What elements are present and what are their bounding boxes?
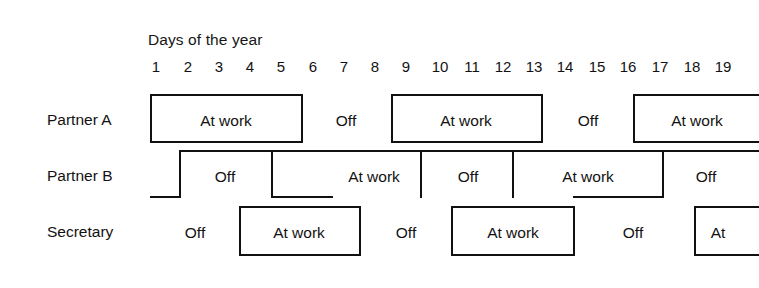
day-tick-16: 16 — [620, 58, 637, 75]
schedule-line-secretary-10 — [694, 254, 759, 256]
day-tick-17: 17 — [652, 58, 669, 75]
day-tick-9: 9 — [402, 58, 410, 75]
schedule-cell-label: At work — [440, 112, 492, 130]
schedule-line-partner-b-12 — [662, 150, 759, 152]
schedule-line-partner-b-11 — [573, 196, 663, 198]
schedule-cell-label: Off — [185, 224, 205, 242]
schedule-line-partner-b-3 — [271, 150, 273, 198]
schedule-line-secretary-8 — [694, 206, 759, 208]
day-tick-3: 3 — [215, 58, 223, 75]
day-tick-18: 18 — [684, 58, 701, 75]
schedule-cell-label: Off — [623, 224, 643, 242]
schedule-line-partner-b-0 — [179, 150, 181, 198]
schedule-line-secretary-9 — [694, 206, 696, 256]
schedule-line-secretary-3 — [239, 254, 361, 256]
schedule-line-partner-b-5 — [271, 196, 333, 198]
schedule-cell-label: At work — [562, 168, 614, 186]
schedule-cell-label: Off — [336, 112, 356, 130]
day-tick-7: 7 — [340, 58, 348, 75]
schedule-line-partner-b-7 — [420, 150, 512, 152]
schedule-cell-label: Off — [696, 168, 716, 186]
row-label-partner-a: Partner A — [47, 111, 112, 129]
schedule-line-partner-b-10 — [662, 150, 664, 198]
schedule-cell-label: At work — [273, 224, 325, 242]
schedule-line-partner-a-3 — [150, 141, 303, 143]
schedule-line-secretary-7 — [451, 254, 575, 256]
schedule-cell-label: At — [711, 224, 726, 242]
schedule-line-partner-a-10 — [633, 141, 759, 143]
schedule-cell-label: At work — [348, 168, 400, 186]
schedule-chart: Days of the year 12345678910111213141516… — [0, 0, 759, 288]
schedule-line-partner-a-9 — [633, 94, 635, 142]
day-tick-11: 11 — [464, 58, 480, 75]
day-tick-13: 13 — [526, 58, 543, 75]
day-tick-2: 2 — [184, 58, 192, 75]
schedule-line-partner-b-4 — [271, 150, 421, 152]
schedule-cell-label: At work — [671, 112, 723, 130]
schedule-line-partner-a-4 — [391, 94, 543, 96]
schedule-line-partner-a-1 — [150, 94, 152, 142]
schedule-cell-label: Off — [578, 112, 598, 130]
schedule-line-partner-a-0 — [150, 94, 303, 96]
schedule-line-partner-b-2 — [179, 150, 271, 152]
row-label-partner-b: Partner B — [47, 167, 112, 185]
schedule-line-partner-a-5 — [391, 94, 393, 142]
schedule-line-secretary-5 — [451, 206, 453, 256]
day-tick-6: 6 — [309, 58, 317, 75]
day-tick-15: 15 — [589, 58, 606, 75]
schedule-cell-label: At work — [200, 112, 252, 130]
day-tick-19: 19 — [715, 58, 732, 75]
row-label-secretary: Secretary — [47, 223, 113, 241]
schedule-line-secretary-0 — [239, 206, 361, 208]
schedule-line-partner-b-1 — [150, 196, 181, 198]
schedule-line-partner-b-6 — [420, 150, 422, 198]
schedule-line-partner-b-9 — [512, 150, 663, 152]
day-tick-8: 8 — [371, 58, 379, 75]
schedule-line-partner-a-7 — [391, 141, 543, 143]
schedule-line-secretary-6 — [573, 206, 575, 256]
schedule-line-partner-a-6 — [541, 94, 543, 142]
schedule-line-secretary-2 — [359, 206, 361, 256]
schedule-line-partner-b-8 — [512, 150, 514, 198]
schedule-line-secretary-4 — [451, 206, 575, 208]
schedule-cell-label: Off — [215, 168, 235, 186]
day-tick-4: 4 — [246, 58, 254, 75]
schedule-cell-label: Off — [396, 224, 416, 242]
schedule-cell-label: At work — [487, 224, 539, 242]
day-tick-10: 10 — [432, 58, 449, 75]
day-tick-12: 12 — [495, 58, 512, 75]
schedule-line-partner-a-8 — [633, 94, 759, 96]
schedule-line-secretary-1 — [239, 206, 241, 256]
day-tick-5: 5 — [277, 58, 285, 75]
schedule-cell-label: Off — [458, 168, 478, 186]
day-tick-14: 14 — [557, 58, 574, 75]
schedule-line-partner-a-2 — [301, 94, 303, 142]
chart-title: Days of the year — [148, 31, 262, 49]
day-tick-1: 1 — [152, 58, 160, 75]
